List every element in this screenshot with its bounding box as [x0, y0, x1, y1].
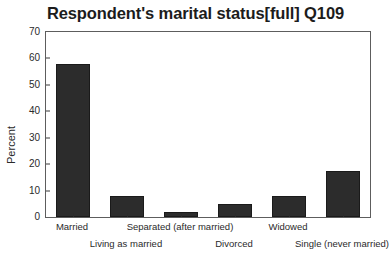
x-tick-mark [235, 213, 236, 217]
x-axis-label: Divorced [215, 239, 253, 249]
x-axis-label: Single (never married) [295, 239, 389, 249]
y-tick-label: 60 [29, 53, 46, 63]
x-tick-mark [181, 213, 182, 217]
x-tick-mark [289, 213, 290, 217]
x-tick-mark [343, 213, 344, 217]
y-tick-label: 10 [29, 186, 46, 196]
x-tick-mark [127, 213, 128, 217]
y-tick-label: 20 [29, 159, 46, 169]
x-tick-mark [73, 213, 74, 217]
y-tick-label: 70 [29, 27, 46, 37]
x-axis-label: Living as married [90, 239, 162, 249]
chart-title: Respondent's marital status[full] Q109 [0, 4, 391, 23]
plot-area: 010203040506070 [45, 31, 371, 218]
y-tick-label: 30 [29, 133, 46, 143]
x-axis-labels: MarriedLiving as marriedSeparated (after… [45, 220, 371, 262]
bars-group [46, 32, 370, 217]
bar-chart: Respondent's marital status[full] Q109 P… [0, 0, 391, 264]
y-axis-title: Percent [5, 110, 17, 180]
y-tick-label: 40 [29, 106, 46, 116]
x-axis-label: Separated (after married) [127, 222, 234, 232]
y-tick-label: 50 [29, 80, 46, 90]
bar [326, 171, 359, 217]
bar [56, 64, 89, 217]
x-axis-label: Married [56, 222, 88, 232]
x-axis-label: Widowed [268, 222, 307, 232]
